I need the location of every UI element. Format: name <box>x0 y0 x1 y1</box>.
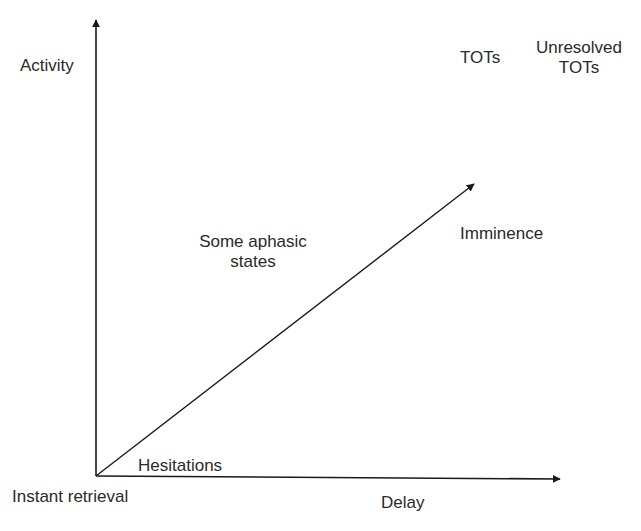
x-axis-label: Delay <box>381 493 424 513</box>
y-axis-label: Activity <box>20 56 74 76</box>
unresolved-tots-label: Unresolved TOTs <box>526 38 632 78</box>
aphasic-line-1: Some aphasic <box>178 232 328 252</box>
x-axis-arrow <box>96 476 560 479</box>
diagonal-arrow <box>96 184 474 476</box>
unresolved-line-1: Unresolved <box>526 38 632 58</box>
aphasic-states-label: Some aphasic states <box>178 232 328 272</box>
unresolved-line-2: TOTs <box>526 58 632 78</box>
origin-label: Instant retrieval <box>12 487 128 507</box>
aphasic-line-2: states <box>178 252 328 272</box>
imminence-label: Imminence <box>460 224 543 244</box>
tots-label: TOTs <box>460 48 500 68</box>
hesitations-label: Hesitations <box>138 456 222 476</box>
